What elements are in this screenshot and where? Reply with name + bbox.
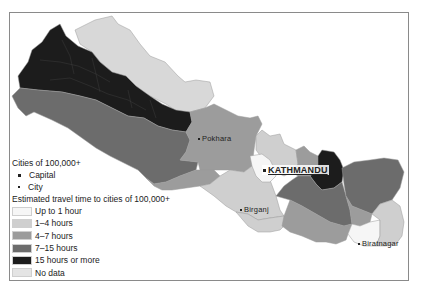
- capital-label-kathmandu: KATHMANDU: [262, 165, 329, 175]
- legend-class-up-to-1h: Up to 1 hour: [12, 205, 170, 217]
- capital-marker-icon: [18, 174, 21, 177]
- legend-travel-heading: Estimated travel time to cities of 100,0…: [12, 193, 170, 205]
- capital-marker-icon: [263, 169, 266, 172]
- legend-swatch: [12, 268, 32, 277]
- legend-capital-row: Capital: [12, 169, 170, 181]
- city-marker-icon: [358, 243, 360, 245]
- city-marker-icon: [18, 186, 20, 188]
- legend-class-1-4h: 1–4 hours: [12, 217, 170, 229]
- legend-swatch: [12, 219, 32, 228]
- legend-swatch: [12, 207, 32, 216]
- map-legend: Cities of 100,000+ Capital City Estimate…: [12, 157, 170, 279]
- legend-city-row: City: [12, 181, 170, 193]
- image-id-watermark: [413, 205, 419, 275]
- city-label-birganj: Birganj: [240, 205, 269, 214]
- legend-class-no-data: No data: [12, 266, 170, 278]
- city-marker-icon: [240, 209, 242, 211]
- legend-class-4-7h: 4–7 hours: [12, 230, 170, 242]
- city-label-pokhara: Pokhara: [198, 134, 231, 143]
- legend-class-7-15h: 7–15 hours: [12, 242, 170, 254]
- legend-swatch: [12, 231, 32, 240]
- legend-swatch: [12, 256, 32, 265]
- legend-swatch: [12, 244, 32, 253]
- legend-cities-heading: Cities of 100,000+: [12, 157, 170, 169]
- city-marker-icon: [198, 138, 200, 140]
- city-label-biratnagar: Biratnagar: [358, 239, 399, 248]
- legend-class-15h-plus: 15 hours or more: [12, 254, 170, 266]
